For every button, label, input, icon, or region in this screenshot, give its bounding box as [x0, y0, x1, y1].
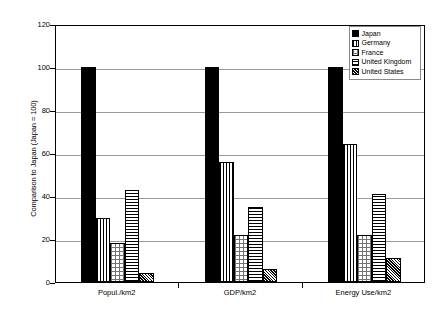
gridline	[56, 198, 424, 199]
bar	[386, 258, 401, 282]
legend-item[interactable]: Japan	[352, 29, 418, 39]
legend: JapanGermanyFranceUnited KingdomUnited S…	[349, 26, 421, 80]
bar	[110, 243, 125, 282]
x-axis-category-label: Energy Use/km2	[336, 288, 391, 297]
bar	[139, 273, 154, 282]
y-axis-tick-mark	[50, 240, 55, 241]
bar	[125, 190, 140, 282]
legend-item-label: Germany	[362, 39, 391, 47]
legend-item[interactable]: United States	[352, 67, 418, 77]
y-axis-tick-label: 0	[28, 279, 50, 287]
bar	[81, 67, 96, 282]
bar	[263, 269, 278, 282]
legend-item[interactable]: Germany	[352, 39, 418, 49]
bar	[219, 162, 234, 282]
legend-item-label: United States	[362, 68, 404, 76]
y-axis-tick-mark	[50, 68, 55, 69]
x-axis-tick-mark	[178, 283, 179, 288]
legend-swatch-icon	[352, 68, 359, 75]
bar-chart: Comparison to Japan (Japan = 100) 020406…	[0, 0, 437, 314]
bar	[328, 67, 343, 282]
legend-swatch-icon	[352, 30, 359, 37]
y-axis-tick-mark	[50, 197, 55, 198]
bar	[248, 207, 263, 282]
legend-swatch-icon	[352, 59, 359, 66]
y-axis-tick-mark	[50, 154, 55, 155]
gridline	[56, 112, 424, 113]
bar	[372, 194, 387, 282]
y-axis-tick-mark	[50, 25, 55, 26]
y-axis-tick-labels: 020406080100120	[28, 0, 50, 314]
bar	[234, 235, 249, 282]
legend-item-label: France	[362, 49, 384, 57]
x-axis-category-label: Popul./km2	[98, 288, 136, 297]
x-axis-tick-mark	[302, 283, 303, 288]
legend-item[interactable]: United Kingdom	[352, 58, 418, 68]
y-axis-tick-label: 40	[28, 193, 50, 201]
bar	[343, 144, 358, 282]
legend-item-label: Japan	[362, 30, 381, 38]
legend-item[interactable]: France	[352, 48, 418, 58]
y-axis-tick-label: 80	[28, 107, 50, 115]
y-axis-tick-label: 120	[28, 21, 50, 29]
y-axis-tick-mark	[50, 283, 55, 284]
y-axis-tick-label: 60	[28, 150, 50, 158]
x-axis-category-label: GDP/km2	[224, 288, 257, 297]
y-axis-tick-label: 20	[28, 236, 50, 244]
bar	[205, 67, 220, 282]
legend-item-label: United Kingdom	[362, 58, 412, 66]
bar	[357, 235, 372, 282]
legend-swatch-icon	[352, 49, 359, 56]
legend-swatch-icon	[352, 40, 359, 47]
y-axis-tick-label: 100	[28, 64, 50, 72]
y-axis-tick-mark	[50, 111, 55, 112]
bar	[96, 218, 111, 283]
gridline	[56, 155, 424, 156]
